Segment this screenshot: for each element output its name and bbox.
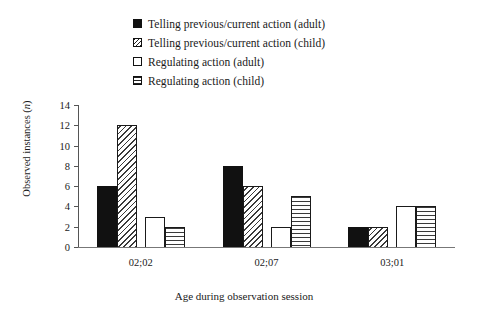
legend-item-telling-child: Telling previous/current action (child) <box>133 33 325 52</box>
bar[interactable] <box>416 206 436 247</box>
y-axis-tick-label: 0 <box>65 242 70 253</box>
bar-chart-figure: Telling previous/current action (adult) … <box>0 0 488 319</box>
empty-white-swatch-icon <box>133 57 142 66</box>
legend-item-regulating-adult: Regulating action (adult) <box>133 52 325 71</box>
bar[interactable] <box>368 227 388 247</box>
bar[interactable] <box>145 217 165 247</box>
plot-area: 02468101214 02;0202;0703;01 <box>78 105 455 247</box>
y-axis-tick-label: 8 <box>65 160 70 171</box>
bar[interactable] <box>165 227 185 247</box>
legend-item-label: Regulating action (adult) <box>148 56 264 68</box>
x-axis-line <box>78 247 455 248</box>
bar-group: 02;07 <box>204 105 330 247</box>
diagonal-hatch-swatch-icon <box>133 38 142 47</box>
y-axis-tick-mark <box>74 247 78 248</box>
y-axis-tick-label: 14 <box>60 100 71 111</box>
y-axis-tick-label: 12 <box>60 120 71 131</box>
bar[interactable] <box>243 186 263 247</box>
y-axis-tick-label: 4 <box>65 201 70 212</box>
bar-group: 02;02 <box>78 105 204 247</box>
y-axis-tick-label: 6 <box>65 181 70 192</box>
legend-item-label: Telling previous/current action (child) <box>148 37 325 49</box>
y-axis-title-suffix: ) <box>21 100 32 104</box>
solid-black-swatch-icon <box>133 19 142 28</box>
legend-item-regulating-child: Regulating action (child) <box>133 71 325 90</box>
x-axis-tick-label: 02;02 <box>129 257 153 268</box>
bar[interactable] <box>396 206 416 247</box>
bar-group: 03;01 <box>329 105 455 247</box>
bar[interactable] <box>97 186 117 247</box>
bar-group-bars <box>348 105 436 247</box>
y-axis-title: Observed instances (n) <box>21 84 32 214</box>
y-axis-title-prefix: Observed instances ( <box>21 109 32 196</box>
bar[interactable] <box>223 166 243 247</box>
x-axis-tick-label: 02;07 <box>255 257 279 268</box>
legend-item-label: Regulating action (child) <box>148 75 264 87</box>
x-axis-tick-label: 03;01 <box>380 257 404 268</box>
bar-groups: 02;0202;0703;01 <box>78 105 455 247</box>
y-axis-tick-label: 2 <box>65 221 70 232</box>
bar[interactable] <box>291 196 311 247</box>
x-axis-title: Age during observation session <box>0 290 488 302</box>
horizontal-lines-swatch-icon <box>133 76 142 85</box>
legend-item-label: Telling previous/current action (adult) <box>148 18 325 30</box>
bar-group-bars <box>97 105 185 247</box>
legend-item-telling-adult: Telling previous/current action (adult) <box>133 14 325 33</box>
chart-legend: Telling previous/current action (adult) … <box>133 14 325 90</box>
y-axis-title-variable: n <box>21 104 32 109</box>
y-axis-tick-label: 10 <box>60 140 71 151</box>
bar[interactable] <box>271 227 291 247</box>
bar-group-bars <box>223 105 311 247</box>
bar[interactable] <box>348 227 368 247</box>
bar[interactable] <box>117 125 137 247</box>
